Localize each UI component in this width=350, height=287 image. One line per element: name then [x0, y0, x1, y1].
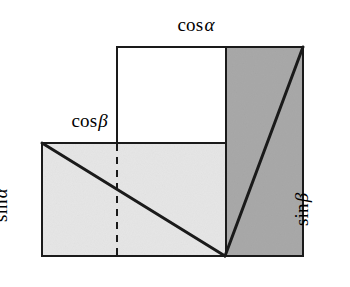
label-sin-alpha-var: α [0, 188, 11, 199]
label-sin-beta-var: β [291, 193, 312, 204]
label-cos-alpha-fn: cos [177, 14, 203, 35]
geometric-figure: cosα cosβ sinα sinβ [0, 0, 350, 287]
label-sin-beta: sinβ [291, 193, 313, 226]
label-cos-beta-var: β [97, 110, 108, 131]
label-sin-alpha-fn: sin [0, 199, 11, 222]
label-cos-beta-fn: cos [71, 110, 97, 131]
figure-canvas [0, 0, 350, 287]
label-sin-beta-fn: sin [291, 203, 312, 226]
label-cos-alpha: cosα [177, 14, 214, 36]
label-sin-alpha: sinα [0, 188, 12, 222]
upper-white-square [117, 47, 226, 143]
label-cos-beta: cosβ [71, 110, 108, 132]
label-cos-alpha-var: α [203, 14, 214, 35]
